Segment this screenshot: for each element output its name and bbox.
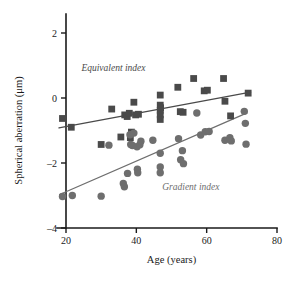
spherical-aberration-scatter-chart: 20–2–420406080 Equivalent indexGradient … (0, 0, 290, 284)
point-gradient-index-0 (59, 193, 66, 200)
x-tick-label-2: 60 (202, 235, 212, 246)
point-equivalent-index-27 (245, 90, 252, 97)
point-equivalent-index-24 (220, 75, 227, 82)
point-gradient-index-26 (205, 128, 212, 135)
point-gradient-index-33 (193, 109, 200, 116)
x-axis-title: Age (years) (147, 254, 197, 266)
point-gradient-index-16 (149, 137, 156, 144)
point-gradient-index-2 (97, 192, 104, 199)
point-gradient-index-1 (69, 192, 76, 199)
y-tick-label-1: 0 (52, 93, 57, 104)
point-equivalent-index-1 (68, 124, 75, 131)
point-equivalent-index-7 (130, 99, 137, 106)
x-tick-label-0: 20 (61, 235, 71, 246)
y-tick-label-0: 2 (52, 28, 57, 39)
point-equivalent-index-0 (59, 115, 66, 122)
point-gradient-index-30 (241, 108, 248, 115)
point-equivalent-index-3 (108, 106, 115, 113)
point-gradient-index-29 (228, 137, 235, 144)
point-equivalent-index-9 (135, 111, 142, 118)
y-axis-title: Spherical aberration (μm) (13, 76, 25, 185)
point-equivalent-index-17 (157, 104, 164, 111)
point-gradient-index-6 (124, 170, 131, 177)
x-tick-label-1: 40 (131, 235, 141, 246)
x-tick-label-3: 80 (272, 235, 282, 246)
point-equivalent-index-12 (157, 92, 164, 99)
point-equivalent-index-26 (227, 112, 234, 119)
point-gradient-index-23 (179, 147, 186, 154)
point-equivalent-index-23 (204, 87, 211, 94)
point-equivalent-index-20 (180, 109, 187, 116)
point-gradient-index-10 (130, 129, 137, 136)
point-equivalent-index-6 (126, 110, 133, 117)
point-equivalent-index-25 (222, 98, 229, 105)
annotation-gradient-index: Gradient index (162, 182, 220, 192)
y-tick-label-2: –2 (46, 158, 57, 169)
point-gradient-index-22 (180, 160, 187, 167)
point-gradient-index-5 (121, 183, 128, 190)
point-gradient-index-3 (105, 141, 112, 148)
point-gradient-index-32 (242, 140, 249, 147)
point-equivalent-index-18 (174, 84, 181, 91)
point-gradient-index-13 (134, 169, 141, 176)
y-tick-label-3: –4 (46, 223, 57, 234)
chart-svg: 20–2–420406080 Equivalent indexGradient … (0, 0, 290, 284)
annotation-equivalent-index: Equivalent index (80, 63, 146, 73)
point-gradient-index-17 (157, 150, 164, 157)
point-gradient-index-31 (242, 120, 249, 127)
point-gradient-index-15 (137, 138, 144, 145)
point-equivalent-index-21 (190, 75, 197, 82)
point-equivalent-index-2 (98, 141, 105, 148)
point-equivalent-index-28 (117, 134, 124, 141)
point-gradient-index-20 (175, 135, 182, 142)
point-gradient-index-19 (157, 169, 164, 176)
point-equivalent-index-16 (157, 116, 164, 123)
